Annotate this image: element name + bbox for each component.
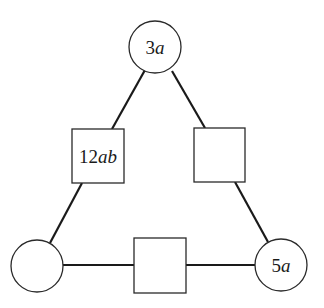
edge-right-bottom [235, 182, 268, 242]
bottom-right-circle-label: 5a [272, 255, 291, 276]
edge-top-left [112, 70, 145, 129]
bottom-left-circle[interactable] [0, 0, 63, 292]
edge-top-right [172, 71, 205, 128]
left-square-label: 12ab [79, 146, 117, 167]
triangle-diagram: 3a 12ab 5a [0, 0, 324, 308]
left-square: 12ab [72, 129, 124, 183]
edge-left-bottom [50, 183, 82, 243]
top-circle-label: 3a [146, 37, 165, 58]
bottom-right-circle: 5a [255, 239, 307, 291]
top-circle: 3a [129, 21, 181, 73]
